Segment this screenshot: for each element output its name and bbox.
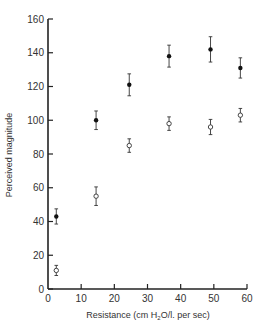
x-tick-label: 60 — [241, 293, 253, 304]
filled-point — [238, 66, 242, 70]
x-tick-label: 10 — [76, 293, 88, 304]
filled-point — [127, 83, 131, 87]
y-tick-label: 0 — [38, 284, 44, 295]
y-tick-label: 160 — [27, 14, 44, 25]
x-tick-label: 20 — [109, 293, 121, 304]
series-open — [54, 108, 242, 275]
x-tick-label: 0 — [45, 293, 51, 304]
y-tick-label: 80 — [33, 149, 45, 160]
y-tick-label: 60 — [33, 182, 45, 193]
open-point — [127, 143, 131, 147]
open-point — [167, 121, 171, 125]
x-tick-label: 50 — [208, 293, 220, 304]
filled-point — [167, 54, 171, 58]
y-tick-label: 100 — [27, 115, 44, 126]
open-point — [94, 194, 98, 198]
y-tick-label: 120 — [27, 81, 44, 92]
y-tick-label: 40 — [33, 216, 45, 227]
y-tick-label: 140 — [27, 47, 44, 58]
x-tick-label: 30 — [142, 293, 154, 304]
x-tick-label: 40 — [175, 293, 187, 304]
open-point — [238, 113, 242, 117]
filled-point — [208, 47, 212, 51]
filled-point — [94, 118, 98, 122]
scatter-chart: 0204060801001201401600102030405060 Perce… — [0, 0, 266, 329]
data-points — [54, 37, 242, 276]
axes: 0204060801001201401600102030405060 — [27, 14, 253, 305]
open-point — [208, 125, 212, 129]
series-filled — [54, 37, 242, 224]
open-point — [54, 268, 58, 272]
y-axis-label: Perceived magnitude — [4, 113, 14, 198]
x-axis-label: Resistance (cm H2O/l. per sec) — [86, 310, 209, 321]
y-tick-label: 20 — [33, 250, 45, 261]
filled-point — [54, 214, 58, 218]
